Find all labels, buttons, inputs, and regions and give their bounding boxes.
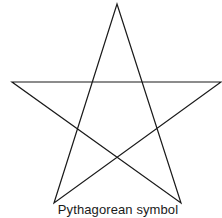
- figure-caption: Pythagorean symbol: [0, 202, 222, 217]
- pentagram-figure: [0, 0, 222, 218]
- pentagram-star-icon: [12, 4, 221, 203]
